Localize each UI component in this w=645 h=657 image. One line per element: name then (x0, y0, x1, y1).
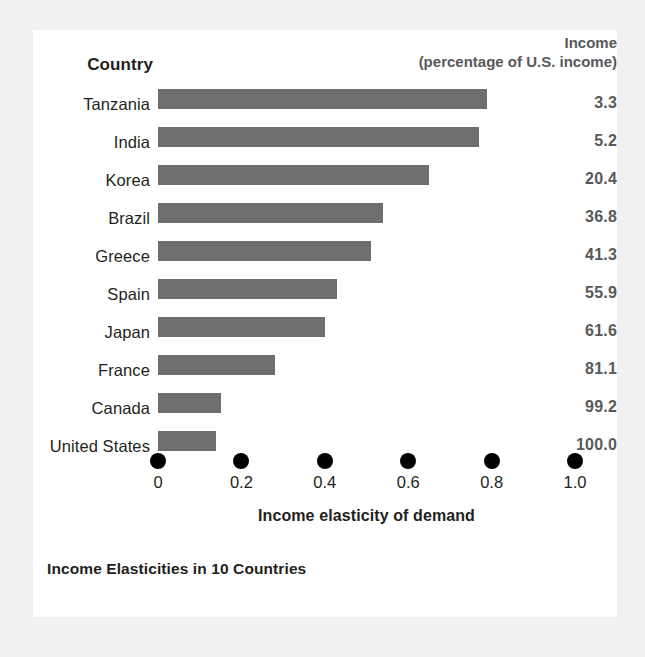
bar-elasticity (158, 241, 371, 261)
axis-tick-dot-icon (400, 453, 416, 469)
row-label-country: Korea (23, 171, 150, 190)
row-label-country: Tanzania (23, 95, 150, 114)
row-value-income: 3.3 (505, 94, 617, 112)
axis-tick-dot-icon (150, 453, 166, 469)
bar-elasticity (158, 317, 325, 337)
axis-tick-dot-icon (233, 453, 249, 469)
chart-row: Canada99.2 (33, 393, 617, 431)
chart-row: France81.1 (33, 355, 617, 393)
row-label-country: Greece (23, 247, 150, 266)
axis-tick-label: 0.4 (295, 473, 355, 492)
column-header-country: Country (33, 55, 153, 75)
row-label-country: United States (23, 437, 150, 456)
row-label-country: Brazil (23, 209, 150, 228)
chart-header: Country Income (percentage of U.S. incom… (33, 30, 617, 88)
row-value-income: 61.6 (505, 322, 617, 340)
chart-row: Tanzania3.3 (33, 89, 617, 127)
row-label-country: Canada (23, 399, 150, 418)
axis-tick-dot-icon (484, 453, 500, 469)
x-axis-title: Income elasticity of demand (158, 507, 575, 525)
axis-tick-label: 0.2 (211, 473, 271, 492)
bar-chart-rows: Tanzania3.3India5.2Korea20.4Brazil36.8Gr… (33, 89, 617, 455)
figure-card: Country Income (percentage of U.S. incom… (33, 30, 617, 617)
chart-row: Korea20.4 (33, 165, 617, 203)
axis-tick-dot-icon (567, 453, 583, 469)
axis-tick-dot-icon (317, 453, 333, 469)
row-value-income: 99.2 (505, 398, 617, 416)
axis-tick-label: 0 (128, 473, 188, 492)
bar-elasticity (158, 431, 216, 451)
row-label-country: Spain (23, 285, 150, 304)
bar-elasticity (158, 127, 479, 147)
chart-row: Brazil36.8 (33, 203, 617, 241)
row-label-country: Japan (23, 323, 150, 342)
row-label-country: India (23, 133, 150, 152)
row-value-income: 5.2 (505, 132, 617, 150)
bar-elasticity (158, 279, 337, 299)
column-header-income-subtitle: (percentage of U.S. income) (277, 52, 617, 71)
figure-caption: Income Elasticities in 10 Countries (47, 560, 607, 578)
row-value-income: 100.0 (505, 436, 617, 454)
row-value-income: 55.9 (505, 284, 617, 302)
chart-row: Greece41.3 (33, 241, 617, 279)
bar-elasticity (158, 165, 429, 185)
row-value-income: 20.4 (505, 170, 617, 188)
axis-tick-label: 1.0 (545, 473, 605, 492)
axis-tick-label: 0.6 (378, 473, 438, 492)
bar-elasticity (158, 393, 221, 413)
row-value-income: 36.8 (505, 208, 617, 226)
row-value-income: 81.1 (505, 360, 617, 378)
column-header-income-title: Income (277, 33, 617, 52)
x-axis: 00.20.40.60.81.0 (158, 453, 575, 505)
chart-row: India5.2 (33, 127, 617, 165)
bar-elasticity (158, 89, 487, 109)
bar-elasticity (158, 203, 383, 223)
row-label-country: France (23, 361, 150, 380)
chart-row: Spain55.9 (33, 279, 617, 317)
axis-tick-label: 0.8 (462, 473, 522, 492)
bar-elasticity (158, 355, 275, 375)
column-header-income: Income (percentage of U.S. income) (277, 33, 617, 71)
chart-row: Japan61.6 (33, 317, 617, 355)
row-value-income: 41.3 (505, 246, 617, 264)
